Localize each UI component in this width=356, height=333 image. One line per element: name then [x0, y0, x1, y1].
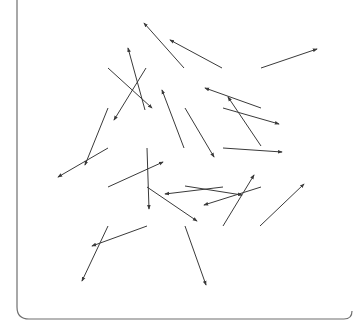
- arrow-4: [108, 68, 152, 108]
- arrow-5: [128, 48, 145, 110]
- arrow-20: [204, 187, 261, 205]
- arrow-16: [108, 162, 163, 187]
- arrow-17: [147, 187, 197, 221]
- arrow-14: [58, 148, 108, 177]
- arrow-3: [261, 49, 317, 68]
- arrow-6: [114, 68, 146, 120]
- arrow-24: [82, 226, 108, 281]
- arrow-11: [228, 97, 261, 146]
- arrow-7: [162, 90, 184, 148]
- arrow-21: [223, 175, 254, 226]
- arrow-10: [223, 108, 279, 124]
- arrow-8: [185, 108, 214, 157]
- arrow-25: [185, 226, 206, 285]
- arrow-22: [260, 184, 304, 226]
- arrow-group: [58, 23, 317, 285]
- arrow-1: [144, 23, 184, 68]
- arrow-diagram-canvas: [0, 0, 356, 333]
- arrow-15: [147, 148, 149, 209]
- arrow-12: [223, 148, 282, 152]
- arrow-13: [85, 108, 108, 165]
- arrow-2: [170, 40, 222, 68]
